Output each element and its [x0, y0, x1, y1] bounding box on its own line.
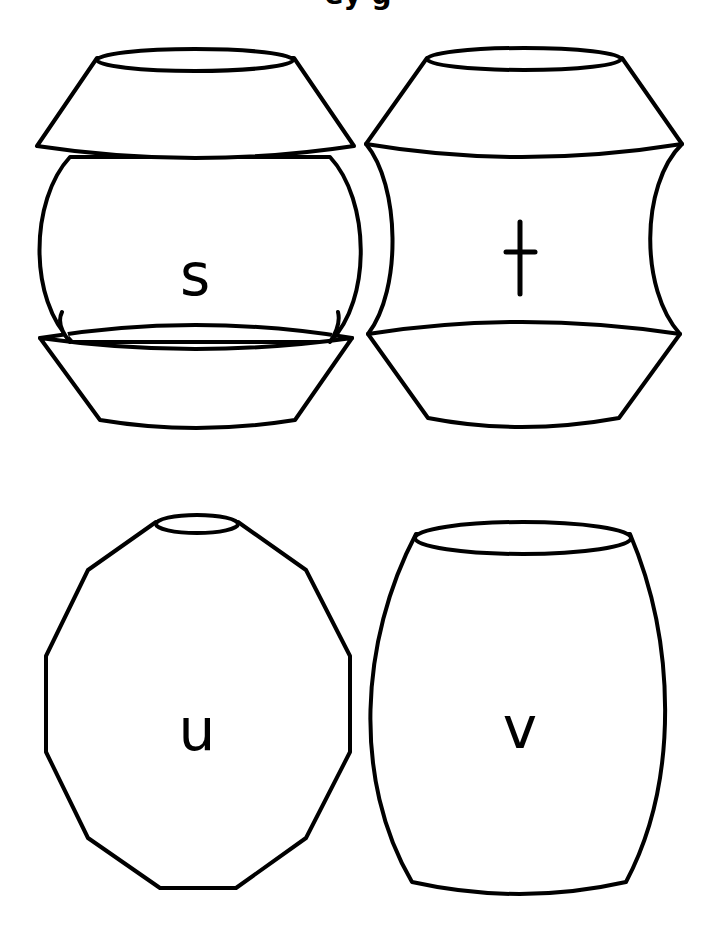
vase-s-top — [37, 58, 354, 158]
vase-v-rim — [415, 522, 631, 554]
vase-t: t — [366, 48, 682, 427]
vase-s-rim — [97, 49, 293, 71]
vase-s-base — [40, 338, 352, 428]
vase-v: v — [370, 522, 665, 894]
vase-u-label: u — [179, 696, 216, 764]
vase-u: u — [46, 515, 350, 888]
vase-s: s — [37, 49, 361, 428]
vase-u-rim — [156, 515, 238, 533]
vase-v-label: v — [503, 694, 537, 762]
vase-t-rim — [427, 48, 621, 70]
vase-t-outline — [366, 58, 682, 427]
vase-s-label: s — [180, 241, 210, 309]
